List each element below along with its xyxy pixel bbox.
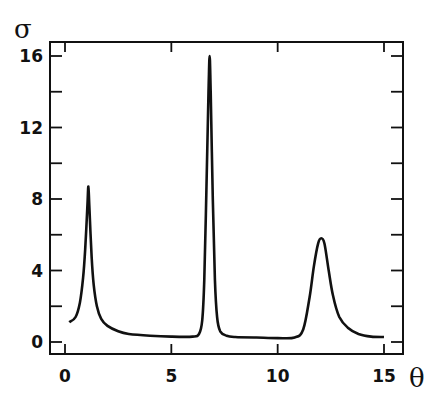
x-tick-label: 0 — [59, 366, 71, 386]
y-tick-label: 12 — [19, 118, 43, 138]
y-tick-label: 4 — [31, 261, 43, 281]
chart: 0510150481216 σ θ — [0, 0, 443, 404]
y-tick-label: 16 — [19, 46, 43, 66]
data-line — [69, 56, 384, 338]
x-axis-label: θ — [409, 363, 425, 393]
y-tick-label: 8 — [31, 189, 43, 209]
y-axis-label: σ — [14, 14, 32, 44]
x-tick-label: 5 — [165, 366, 177, 386]
plot-frame — [50, 42, 403, 354]
x-tick-label: 10 — [266, 366, 290, 386]
x-tick-label: 15 — [372, 366, 396, 386]
y-tick-label: 0 — [31, 332, 43, 352]
axis-ticks — [50, 42, 403, 354]
